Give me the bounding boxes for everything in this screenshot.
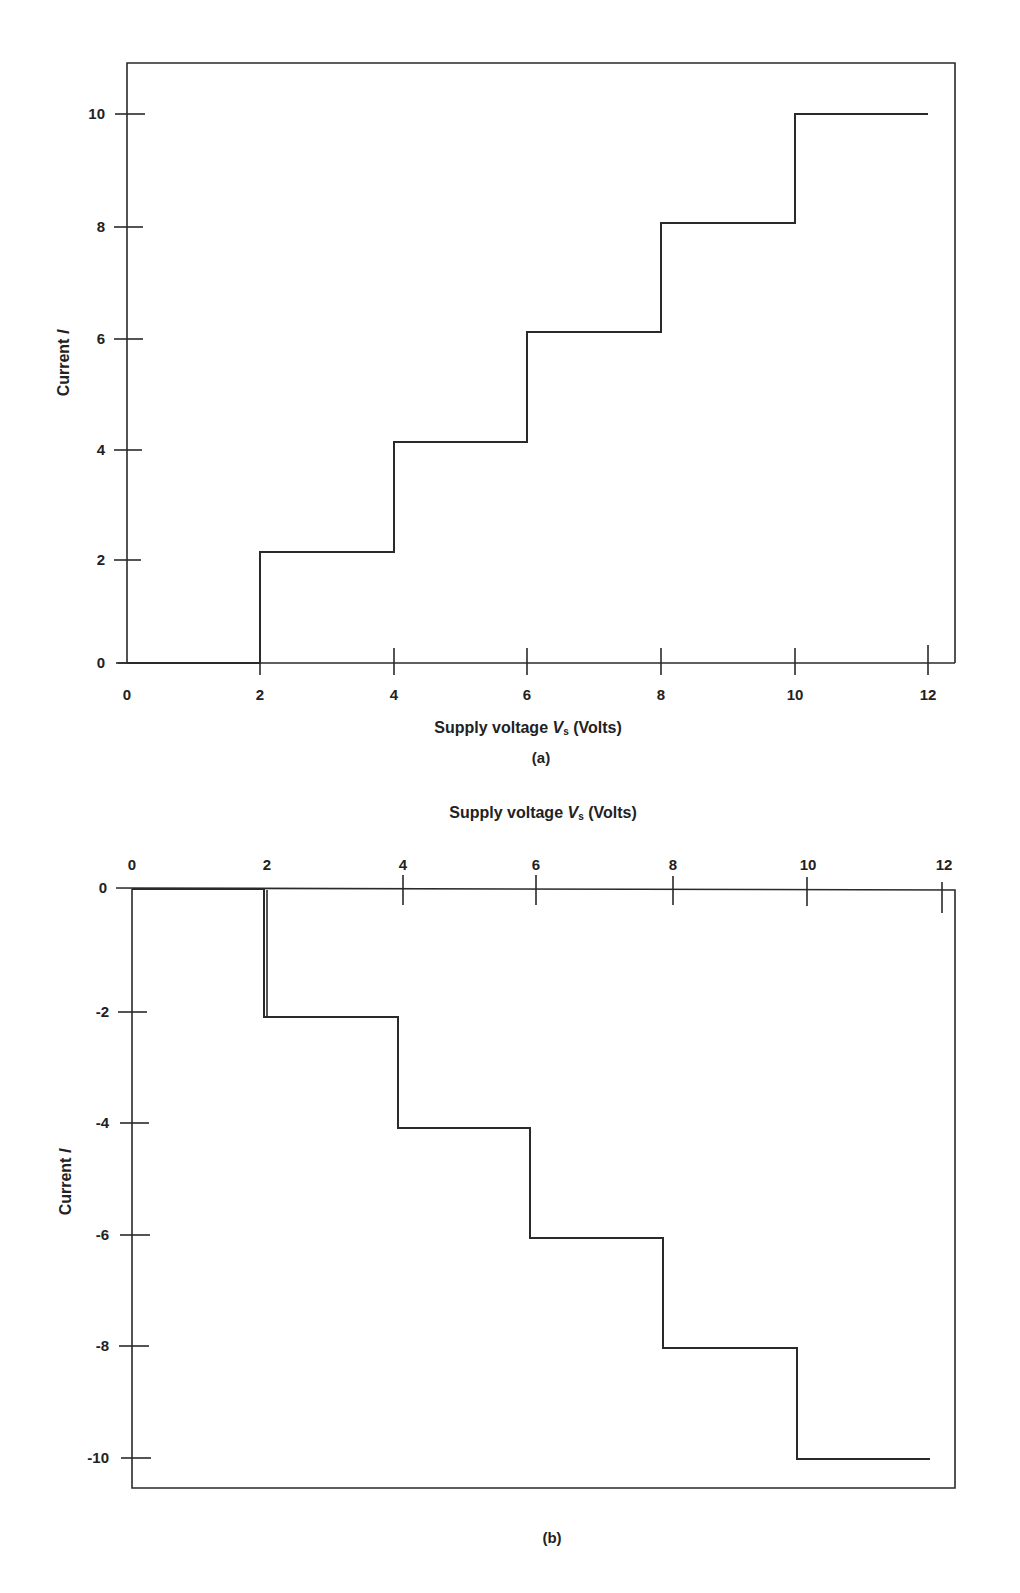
chart-a: 0 2 4 6 8 10 0 2 4 6 8 10 12 Suppl <box>55 63 955 766</box>
chart-b-y-axis-title: Current I <box>57 1148 74 1215</box>
chart-b: Supply voltage Vs (Volts) 0 2 4 6 8 10 1… <box>57 804 955 1546</box>
x-tick-label: 10 <box>800 856 817 873</box>
x-tick-label: 0 <box>123 686 131 703</box>
x-tick-label: 12 <box>936 856 953 873</box>
y-tick-label: 10 <box>88 105 105 122</box>
chart-a-x-axis-title: Supply voltage Vs (Volts) <box>434 719 622 737</box>
chart-b-caption: (b) <box>542 1529 561 1546</box>
x-tick-label: 2 <box>263 856 271 873</box>
y-tick-label: -10 <box>87 1449 109 1466</box>
x-tick-label: 0 <box>128 856 136 873</box>
chart-a-y-tick-labels: 0 2 4 6 8 10 <box>88 105 105 671</box>
chart-a-step-series <box>127 114 928 663</box>
x-tick-label: 10 <box>787 686 804 703</box>
y-tick-label: 4 <box>97 441 106 458</box>
x-tick-label: 4 <box>399 856 408 873</box>
chart-b-x-axis-title: Supply voltage Vs (Volts) <box>449 804 637 822</box>
chart-b-x-tick-labels: 0 2 4 6 8 10 12 <box>128 856 953 873</box>
y-tick-label: -6 <box>96 1226 109 1243</box>
figure: 0 2 4 6 8 10 0 2 4 6 8 10 12 Suppl <box>0 0 1020 1593</box>
x-tick-label: 6 <box>532 856 540 873</box>
chart-a-x-tick-labels: 0 2 4 6 8 10 12 <box>123 686 937 703</box>
chart-b-frame <box>116 888 955 1488</box>
x-tick-label: 8 <box>669 856 677 873</box>
x-tick-label: 8 <box>657 686 665 703</box>
y-tick-label: -8 <box>96 1337 109 1354</box>
x-tick-label: 6 <box>523 686 531 703</box>
y-tick-label: 6 <box>97 330 105 347</box>
y-tick-label: -4 <box>96 1114 110 1131</box>
x-tick-label: 4 <box>390 686 399 703</box>
x-tick-label: 2 <box>256 686 264 703</box>
chart-a-x-ticks <box>260 645 928 675</box>
chart-a-frame <box>127 63 955 663</box>
chart-b-x-ticks <box>267 875 942 1018</box>
x-tick-label: 12 <box>920 686 937 703</box>
y-tick-label: 0 <box>97 654 105 671</box>
chart-a-y-ticks <box>114 114 145 663</box>
chart-a-y-axis-title: Current I <box>55 329 72 396</box>
y-tick-label: 0 <box>99 879 107 896</box>
chart-b-y-ticks <box>118 1012 151 1458</box>
chart-a-caption: (a) <box>532 749 550 766</box>
y-tick-label: -2 <box>96 1003 109 1020</box>
chart-b-y-tick-labels: 0 -2 -4 -6 -8 -10 <box>87 879 109 1466</box>
y-tick-label: 2 <box>97 551 105 568</box>
y-tick-label: 8 <box>97 218 105 235</box>
chart-b-step-series <box>132 889 930 1459</box>
